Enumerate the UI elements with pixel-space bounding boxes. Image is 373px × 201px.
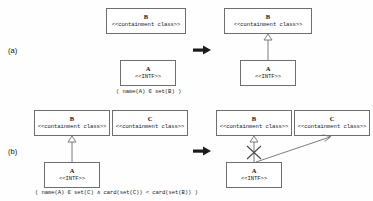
row-b-transform-arrow bbox=[193, 147, 211, 156]
class-stereotype: <<containment class>> bbox=[220, 123, 288, 131]
row-b-before-box-C[interactable]: C <<containment class>> bbox=[112, 110, 188, 136]
row-a-transform-arrow bbox=[193, 46, 211, 55]
class-stereotype: <<INTF>> bbox=[255, 73, 281, 81]
class-stereotype: <<containment class>> bbox=[116, 123, 184, 131]
class-stereotype: <<containment class>> bbox=[112, 21, 180, 29]
row-b-after-box-C[interactable]: C <<containment class>> bbox=[294, 110, 370, 136]
row-label-b: (b) bbox=[8, 147, 17, 156]
class-name: C bbox=[330, 115, 335, 123]
class-stereotype: <<containment class>> bbox=[234, 21, 302, 29]
row-a-before-box-A[interactable]: A <<INTF>> bbox=[120, 60, 176, 86]
class-stereotype: <<INTF>> bbox=[59, 175, 85, 183]
class-stereotype: <<containment class>> bbox=[38, 123, 106, 131]
row-b-after-box-B[interactable]: B <<containment class>> bbox=[216, 110, 292, 136]
class-name: A bbox=[252, 167, 257, 175]
row-a-before-box-B[interactable]: B <<containment class>> bbox=[106, 8, 186, 34]
row-a-after-box-A[interactable]: A <<INTF>> bbox=[240, 60, 296, 86]
row-label-a: (a) bbox=[8, 46, 17, 55]
class-name: B bbox=[144, 13, 148, 21]
row-b-before-generalization-A-to-B[interactable] bbox=[68, 136, 76, 162]
row-b-caption: ( name(A) ∈ set(C) ∧ card(set(C)) < card… bbox=[35, 189, 198, 197]
class-name: A bbox=[70, 167, 75, 175]
class-name: B bbox=[70, 115, 74, 123]
class-name: A bbox=[146, 65, 151, 73]
row-a-caption: ( name(A) ∈ set(B) ) bbox=[116, 88, 181, 96]
class-name: A bbox=[266, 65, 271, 73]
class-name: B bbox=[252, 115, 256, 123]
row-b-after-generalization-A-to-B-deleted[interactable] bbox=[247, 136, 261, 162]
class-stereotype: <<INTF>> bbox=[241, 175, 267, 183]
class-stereotype: <<INTF>> bbox=[135, 73, 161, 81]
class-stereotype: <<containment class>> bbox=[298, 123, 366, 131]
row-a-after-box-B[interactable]: B <<containment class>> bbox=[224, 8, 312, 34]
class-name: C bbox=[148, 115, 153, 123]
row-b-after-association-A-to-C[interactable] bbox=[256, 135, 331, 162]
uml-transformation-figure: (a) B <<containment class>> A <<INTF>> (… bbox=[0, 0, 373, 201]
row-a-generalization-A-to-B[interactable] bbox=[264, 34, 272, 60]
row-b-after-box-A[interactable]: A <<INTF>> bbox=[226, 162, 282, 188]
row-b-before-box-A[interactable]: A <<INTF>> bbox=[44, 162, 100, 188]
row-b-before-box-B[interactable]: B <<containment class>> bbox=[34, 110, 110, 136]
class-name: B bbox=[266, 13, 270, 21]
